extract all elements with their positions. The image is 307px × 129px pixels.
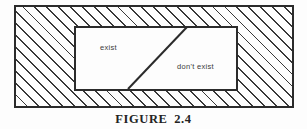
exist-region-label: exist	[100, 44, 117, 52]
inner-white-rectangle	[74, 26, 238, 91]
figure-caption: FIGURE 2.4	[0, 112, 307, 127]
dont-exist-region-label: don't exist	[177, 63, 214, 71]
figure-2-4: exist don't exist FIGURE 2.4	[0, 0, 307, 129]
